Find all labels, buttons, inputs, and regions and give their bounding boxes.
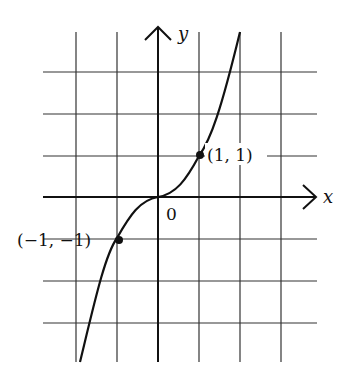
point-label-1-1: (1, 1) bbox=[207, 145, 253, 165]
cubic-function-graph: (1, 1) (−1, −1) 0 x y bbox=[0, 0, 349, 366]
y-axis-label: y bbox=[177, 23, 189, 44]
x-axis-label: x bbox=[323, 186, 333, 207]
origin-label: 0 bbox=[166, 204, 177, 224]
point-label-minus1-minus1: (−1, −1) bbox=[17, 230, 91, 250]
point-1-1 bbox=[196, 151, 204, 159]
point-minus1-minus1 bbox=[115, 236, 123, 244]
axes bbox=[43, 27, 316, 362]
